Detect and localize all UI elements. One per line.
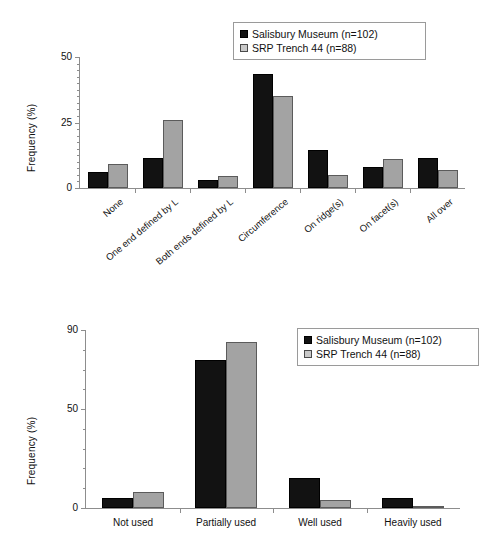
bar (289, 478, 320, 508)
y-tick-minor (77, 109, 80, 110)
bar (198, 180, 218, 188)
y-tick-minor (77, 70, 80, 71)
x-tick (355, 189, 356, 193)
bar (363, 167, 383, 188)
bar (163, 120, 183, 188)
bar (195, 360, 226, 508)
y-tick-minor (77, 149, 80, 150)
bar (383, 159, 403, 188)
y-tick-minor (77, 142, 80, 143)
bar (253, 74, 273, 188)
y-tick-minor (83, 429, 86, 430)
y-tick-label: 50 (42, 403, 78, 414)
y-tick-minor (77, 77, 80, 78)
y-tick-minor (77, 96, 80, 97)
y-tick-minor (77, 90, 80, 91)
bar (102, 498, 133, 508)
y-tick-minor (77, 136, 80, 137)
y-tick-minor (77, 103, 80, 104)
chart-bottom: Frequency (%) 05090Not usedPartially use… (0, 300, 484, 551)
bar (438, 170, 458, 188)
gray-square-icon (304, 350, 312, 358)
bar (320, 500, 351, 508)
x-axis-label: All over (333, 196, 455, 301)
legend-label-srp: SRP Trench 44 (n=88) (252, 42, 357, 54)
legend-label-salisbury: Salisbury Museum (n=102) (316, 334, 442, 346)
y-tick-minor (83, 449, 86, 450)
y-tick-label: 25 (36, 117, 72, 128)
legend-item-srp: SRP Trench 44 (n=88) (304, 347, 471, 361)
bar (382, 498, 413, 508)
x-axis-label: Heavily used (353, 517, 473, 528)
x-tick (180, 509, 181, 513)
legend-label-srp: SRP Trench 44 (n=88) (316, 348, 421, 360)
y-tick-minor (77, 64, 80, 65)
y-tick-minor (83, 468, 86, 469)
y-tick-major (75, 123, 80, 124)
y-axis-line-bottom (85, 330, 86, 508)
y-tick-minor (77, 181, 80, 182)
y-tick-major (75, 57, 80, 58)
legend-top: Salisbury Museum (n=102) SRP Trench 44 (… (233, 22, 426, 60)
legend-item-salisbury: Salisbury Museum (n=102) (240, 27, 418, 41)
x-axis-label: One end defined by L (58, 196, 180, 301)
bar (88, 172, 108, 188)
y-tick-minor (77, 155, 80, 156)
y-tick-major (81, 330, 86, 331)
legend-label-salisbury: Salisbury Museum (n=102) (252, 28, 378, 40)
y-tick-minor (77, 162, 80, 163)
y-tick-minor (77, 83, 80, 84)
x-tick (135, 189, 136, 193)
bar (273, 96, 293, 188)
y-tick-major (81, 508, 86, 509)
bar (108, 164, 128, 188)
x-tick (273, 509, 274, 513)
bar (133, 492, 164, 508)
y-tick-minor (77, 129, 80, 130)
x-tick (190, 189, 191, 193)
y-tick-minor (83, 389, 86, 390)
bar (413, 506, 444, 508)
x-axis-label: Circumference (168, 196, 290, 301)
y-tick-minor (83, 370, 86, 371)
x-tick (245, 189, 246, 193)
y-tick-major (81, 409, 86, 410)
legend-item-salisbury: Salisbury Museum (n=102) (304, 333, 471, 347)
x-axis-line-top (79, 188, 465, 189)
y-tick-label: 0 (36, 182, 72, 193)
x-axis-label: On facet(s) (278, 196, 400, 301)
bar (328, 175, 348, 188)
black-square-icon (304, 336, 312, 344)
y-tick-minor (77, 168, 80, 169)
bar (418, 158, 438, 188)
y-tick-minor (77, 175, 80, 176)
bar (143, 158, 163, 188)
y-tick-minor (83, 488, 86, 489)
y-tick-label: 90 (42, 324, 78, 335)
chart-top: Frequency (%) 02550NoneOne end defined b… (0, 0, 484, 290)
x-axis-label: On ridge(s) (223, 196, 345, 301)
bar (226, 342, 257, 508)
bar (308, 150, 328, 188)
x-tick (367, 509, 368, 513)
legend-bottom: Salisbury Museum (n=102) SRP Trench 44 (… (297, 328, 479, 366)
bar (218, 176, 238, 188)
x-axis-label: None (3, 196, 125, 301)
y-tick-label: 50 (36, 51, 72, 62)
x-tick (410, 189, 411, 193)
y-tick-major (75, 188, 80, 189)
black-square-icon (240, 30, 248, 38)
x-axis-label: Both ends defined by L (113, 196, 235, 301)
legend-item-srp: SRP Trench 44 (n=88) (240, 41, 418, 55)
x-tick (300, 189, 301, 193)
y-tick-label: 0 (42, 502, 78, 513)
y-tick-minor (83, 350, 86, 351)
y-tick-minor (77, 116, 80, 117)
gray-square-icon (240, 44, 248, 52)
